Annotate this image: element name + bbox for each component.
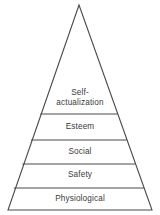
pyramid-outline (8, 5, 152, 210)
maslow-pyramid-figure: Self- actualization Esteem Social Safety… (0, 0, 160, 215)
pyramid-outline-graphic (0, 0, 160, 215)
